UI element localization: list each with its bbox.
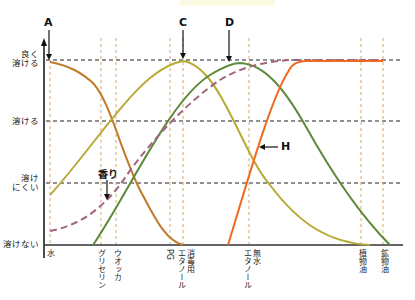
annotation-arrows (49, 30, 278, 196)
x-label-disinfectant-ethanol: 消毒用 エタノール (176, 249, 194, 289)
category-lines (50, 38, 383, 245)
x-label-vodka: ウオッカ (112, 249, 121, 281)
series-h-line (228, 61, 383, 245)
y-axis-arrow-icon (41, 38, 47, 46)
marker-d: D (225, 16, 234, 29)
x-label-glycerin: グリセリン (96, 249, 105, 289)
y-label-soluble: 溶ける (12, 117, 39, 126)
y-label-very-soluble: 良く 溶ける (12, 50, 39, 68)
x-label-pg: PG (165, 249, 174, 260)
series-aroma-line (50, 60, 383, 231)
marker-c: C (179, 16, 187, 29)
y-label-poorly-soluble: 溶け にくい (12, 174, 39, 192)
marker-h: H (281, 140, 290, 153)
x-label-water: 水 (45, 249, 54, 257)
aroma-label: 香り (98, 166, 118, 181)
x-label-mineral-oil: 鉱物油 (379, 249, 388, 273)
y-label-insoluble: 溶けない (3, 240, 39, 249)
solubility-chart (0, 0, 415, 300)
x-label-vegetable-oil: 植物油 (357, 249, 366, 273)
x-label-anhydrous-ethanol: 無水 エタノール (242, 249, 260, 289)
marker-a: A (44, 16, 53, 29)
